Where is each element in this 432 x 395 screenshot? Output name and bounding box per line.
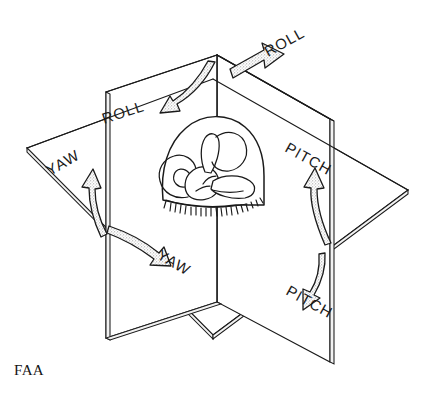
source-caption: FAA [14,362,44,379]
figure-root: ROLL ROLL PITCH PITCH YAW YAW FAA [0,0,432,395]
planes-of-motion-diagram: ROLL ROLL PITCH PITCH YAW YAW [0,0,432,395]
